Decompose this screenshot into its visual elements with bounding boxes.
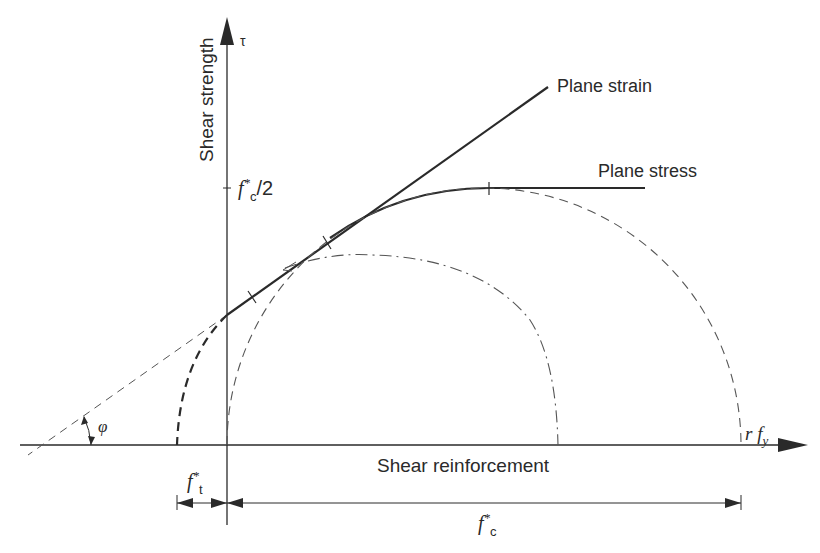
fc-dimension-label: f*c xyxy=(478,510,497,539)
large-mohr-circle xyxy=(227,188,741,445)
friction-line-extension xyxy=(28,315,227,455)
intermediate-mohr-circle xyxy=(285,255,558,445)
envelope-tick-1 xyxy=(248,291,256,303)
shear-strength-diagram: φ r fy Shear strength τ f*c/2 Plane stra… xyxy=(0,0,820,553)
plane-stress-curve xyxy=(330,188,645,238)
y-tick-label: f*c/2 xyxy=(238,175,273,204)
x-axis-arrowhead-icon xyxy=(778,438,808,452)
x-axis-label: Shear reinforcement xyxy=(377,455,550,476)
ft-arrow-right-icon xyxy=(211,498,227,508)
ft-arrow-left-icon xyxy=(177,498,193,508)
fc-arrow-right-icon xyxy=(725,498,741,508)
plane-strain-line xyxy=(227,87,548,315)
y-axis-label: Shear strength xyxy=(196,37,217,162)
plane-strain-label: Plane strain xyxy=(557,76,652,96)
ft-dimension-label: f*t xyxy=(187,468,203,497)
plane-stress-label: Plane stress xyxy=(598,161,697,181)
phi-arrow-down-icon xyxy=(88,436,95,445)
x-axis-end-label: r fy xyxy=(745,423,768,448)
tension-cutoff-arc xyxy=(177,315,227,445)
y-axis-arrowhead-icon xyxy=(220,17,234,45)
fc-arrow-left-icon xyxy=(227,498,243,508)
phi-label: φ xyxy=(98,417,107,436)
tau-symbol: τ xyxy=(240,33,246,49)
